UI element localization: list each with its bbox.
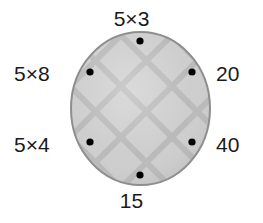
point-upper-left xyxy=(86,68,93,75)
label-upper-left: 5×8 xyxy=(14,63,50,84)
circle-svg xyxy=(70,31,211,186)
point-lower-left xyxy=(86,138,93,145)
label-upper-right: 20 xyxy=(216,63,239,84)
point-bottom xyxy=(136,171,143,178)
label-top: 5×3 xyxy=(0,8,263,29)
diagram-canvas: 5×3 5×8 5×4 20 40 15 xyxy=(0,0,263,223)
point-lower-right xyxy=(188,138,195,145)
circle-shape xyxy=(70,31,211,186)
label-lower-left: 5×4 xyxy=(14,134,50,155)
label-lower-right: 40 xyxy=(216,134,239,155)
point-upper-right xyxy=(188,68,195,75)
point-top xyxy=(136,37,143,44)
label-bottom: 15 xyxy=(0,190,263,211)
